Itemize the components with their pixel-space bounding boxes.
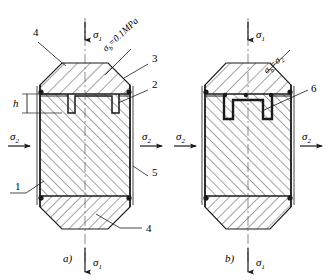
panel-b [174,18,322,272]
seal-dot-bottom-left-b [203,195,208,200]
groove-dot-right-b [269,93,273,97]
panel-a-right-stress-label: σ2 [142,130,151,145]
seal-dot-top-left-b [203,89,208,94]
panel-b-left-stress-label: σ2 [176,130,185,145]
callout-b-6: 6 [311,82,317,94]
panel-a-top-stress-label: σ1 [93,28,102,43]
panel-b-caption: b) [225,252,235,265]
figure-canvas: σ1 σ1 σ2 σ2 σb=0.1MPa h 4 3 2 1 5 4 a) σ… [0,0,335,280]
callout-a-4-top: 4 [33,26,39,38]
callout-a-3: 3 [152,52,158,64]
technical-diagram-svg: σ1 σ1 σ2 σ2 σb=0.1MPa h 4 3 2 1 5 4 a) σ… [0,0,335,280]
panel-a [8,18,162,272]
seal-dot-bottom-right [126,195,131,200]
panel-b-right-stress-label: σ2 [302,130,311,145]
panel-a-left-stress-label: σ2 [10,130,19,145]
panel-b-bottom-stress-label: σ1 [256,256,265,271]
leader-a-5 [133,166,148,176]
panel-a-h-label: h [13,97,19,109]
panel-a-caption: a) [63,252,73,265]
groove-dot-left-b [223,93,227,97]
callout-a-2: 2 [152,78,158,90]
groove-dot-center-b [244,93,248,97]
callout-a-5: 5 [152,166,158,178]
panel-a-boundary-pressure-label: σb=0.1MPa [101,15,142,54]
seal-dot-bottom-left [38,195,43,200]
seal-dot-bottom-right-b [287,195,292,200]
seal-dot-top-right-b [287,89,292,94]
callout-a-1: 1 [15,180,21,192]
callout-a-4-bottom: 4 [146,222,152,234]
leader-a-3 [124,64,148,78]
panel-b-top-stress-label: σ1 [256,28,265,43]
panel-a-bottom-stress-label: σ1 [93,256,102,271]
seal-dot-top-right [126,89,131,94]
leader-a-boundary-pressure [105,49,131,75]
leader-a-4-top [38,42,66,66]
